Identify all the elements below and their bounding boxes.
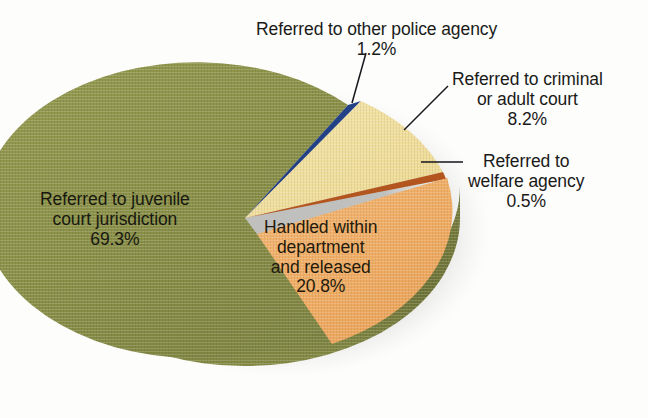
slice-label-other-police-agency: Referred to other police agency 1.2%: [256, 20, 497, 60]
slice-label-text: Referred to criminal: [452, 70, 603, 90]
slice-label-text: and released: [264, 258, 377, 278]
slice-label-percent: 20.8%: [264, 277, 377, 297]
slice-label-percent: 8.2%: [452, 110, 603, 130]
slice-label-handled-in-department: Handled within department and released 2…: [264, 218, 377, 297]
slice-label-criminal-court: Referred to criminal or adult court 8.2%: [452, 70, 603, 129]
slice-label-text: welfare agency: [468, 172, 584, 192]
leader-line-criminal-court: [404, 86, 448, 130]
slice-label-percent: 0.5%: [468, 192, 584, 212]
slice-label-juvenile-court: Referred to juvenile court jurisdiction …: [40, 190, 190, 249]
slice-label-percent: 1.2%: [256, 40, 497, 60]
slice-label-text: Referred to other police agency: [256, 20, 497, 40]
slice-label-welfare-agency: Referred to welfare agency 0.5%: [468, 152, 584, 211]
slice-label-text: department: [264, 238, 377, 258]
slice-label-text: Handled within: [264, 218, 377, 238]
slice-label-percent: 69.3%: [40, 230, 190, 250]
slice-label-text: or adult court: [452, 90, 603, 110]
pie-chart-figure: Referred to other police agency 1.2% Ref…: [0, 0, 648, 418]
slice-label-text: Referred to juvenile: [40, 190, 190, 210]
slice-label-text: Referred to: [468, 152, 584, 172]
slice-label-text: court jurisdiction: [40, 210, 190, 230]
